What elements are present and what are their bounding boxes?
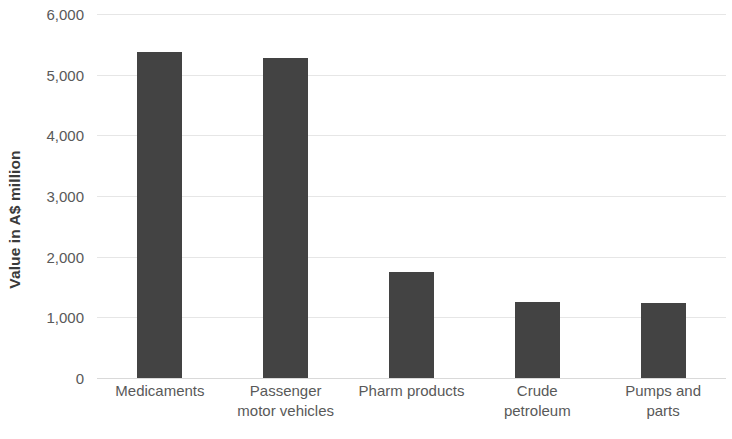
x-axis-category-labels: MedicamentsPassenger motor vehiclesPharm… [97, 381, 726, 439]
x-axis-category-label: Pharm products [349, 381, 475, 401]
y-axis-tick-label: 2,000 [0, 249, 84, 264]
y-axis-tick-label: 4,000 [0, 128, 84, 143]
y-axis-tick-label: 6,000 [0, 7, 84, 22]
bar [137, 52, 182, 378]
y-axis-tick-label: 5,000 [0, 67, 84, 82]
y-axis-tick-label: 0 [0, 371, 84, 386]
bar [641, 303, 686, 378]
x-axis-category-label: Crude petroleum [474, 381, 600, 421]
x-axis-category-label: Medicaments [97, 381, 223, 401]
y-axis-tick-labels: 01,0002,0003,0004,0005,0006,000 [0, 0, 84, 439]
bars [97, 14, 726, 378]
bar [389, 272, 434, 378]
x-axis-category-label: Passenger motor vehicles [223, 381, 349, 421]
y-axis-tick-label: 3,000 [0, 189, 84, 204]
bar [515, 302, 560, 378]
axis-baseline [97, 378, 726, 379]
y-axis-tick-label: 1,000 [0, 310, 84, 325]
bar [263, 58, 308, 378]
x-axis-category-label: Pumps and parts [600, 381, 726, 421]
plot-area [97, 14, 726, 378]
bar-chart: Value in A$ million 01,0002,0003,0004,00… [0, 0, 732, 439]
